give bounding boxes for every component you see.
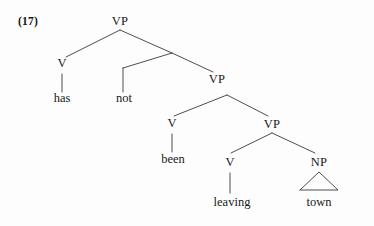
leaf-has: has xyxy=(54,92,71,105)
node-vp-top: VP xyxy=(112,15,128,28)
np-town-triangle xyxy=(300,172,338,190)
syntax-tree-figure: (17) VP V VP V VP V NP has not been leav… xyxy=(0,0,374,226)
node-v-leaving: V xyxy=(225,156,234,169)
node-v-has: V xyxy=(57,57,66,70)
edge-vp-top-to-intermediate xyxy=(120,30,172,53)
edge-vp2-to-v-been xyxy=(174,95,227,116)
node-vp-2: VP xyxy=(209,73,225,86)
node-v-been: V xyxy=(167,117,176,130)
edge-vp2-to-vp3 xyxy=(227,95,268,116)
edge-vp-top-to-v-has xyxy=(66,30,120,57)
edge-intermediate-to-vp2 xyxy=(172,53,213,72)
leaf-not: not xyxy=(116,92,132,105)
node-vp-3: VP xyxy=(264,118,280,131)
node-np-town: NP xyxy=(311,156,327,169)
leaf-been: been xyxy=(161,153,185,166)
edge-vp3-to-v-leaving xyxy=(231,133,272,153)
leaf-leaving: leaving xyxy=(214,196,251,209)
tree-branch-lines xyxy=(0,0,374,226)
edge-intermediate-to-not-corner xyxy=(123,53,172,68)
edge-vp3-to-np-town xyxy=(272,133,315,153)
leaf-town: town xyxy=(307,196,332,209)
